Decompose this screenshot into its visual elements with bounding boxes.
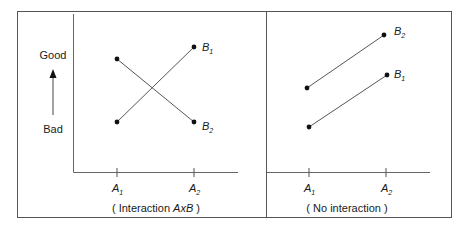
right-point-a2-b2 (382, 33, 387, 38)
right-label-b2: B2 (394, 25, 405, 39)
right-series-b1-line (309, 75, 387, 127)
left-label-b1: B1 (202, 41, 213, 55)
right-panel: B2 B1 A1 A2 ( No interaction ) (267, 25, 431, 214)
left-series-b2-line (117, 59, 194, 122)
left-label-b2: B2 (202, 120, 213, 134)
left-point-a1-b1 (115, 120, 120, 125)
left-caption: ( Interaction AxB ) (112, 202, 200, 214)
good-label: Good (40, 49, 67, 61)
left-point-a2-b1 (192, 45, 197, 50)
left-xlabel-a2: A2 (188, 182, 200, 196)
right-point-a2-b1 (385, 73, 390, 78)
interaction-diagram: Good Bad B1 B2 A1 A2 ( Interaction AxB ) (0, 0, 468, 230)
right-series-b2-line (307, 35, 384, 88)
right-caption: ( No interaction ) (306, 202, 387, 214)
up-arrow-icon (50, 69, 57, 78)
right-xlabel-a2: A2 (380, 182, 392, 196)
left-series-b1-line (117, 47, 194, 122)
right-point-a1-b1 (307, 125, 312, 130)
left-panel: Good Bad B1 B2 A1 A2 ( Interaction AxB ) (40, 14, 238, 214)
right-xlabel-a1: A1 (303, 182, 315, 196)
left-xlabel-a1: A1 (111, 182, 123, 196)
bad-label: Bad (43, 123, 63, 135)
left-point-a2-b2 (192, 120, 197, 125)
right-label-b1: B1 (394, 68, 405, 82)
right-point-a1-b2 (305, 86, 310, 91)
left-point-a1-b2 (115, 57, 120, 62)
